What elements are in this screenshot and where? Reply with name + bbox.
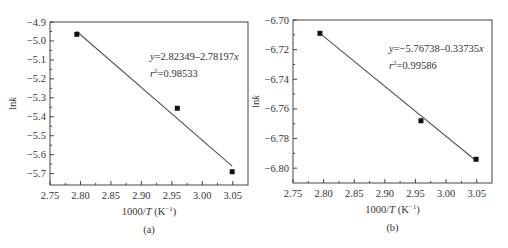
data-point (230, 169, 235, 174)
y-tick-label: −5.7 (27, 168, 46, 179)
x-tick-label: 2.85 (102, 190, 120, 201)
x-tick-label: 3.05 (468, 188, 486, 199)
y-tick-label: −5.5 (27, 130, 46, 141)
plot-frame (50, 22, 248, 185)
y-axis-title: lnk (250, 95, 261, 108)
x-tick-label: 3.05 (224, 190, 242, 201)
x-tick-label: 2.95 (163, 190, 181, 201)
data-point (74, 32, 79, 37)
y-tick-label: −5.0 (27, 35, 46, 46)
y-tick-label: −5.1 (27, 54, 46, 65)
x-axis-title: 1000/T (K−1) (122, 205, 177, 218)
figure: 2.752.802.852.902.953.003.05−4.9−5.0−5.1… (0, 0, 508, 248)
x-tick-label: 3.00 (437, 188, 455, 199)
panel-label: (a) (143, 224, 155, 236)
r-squared: r2=0.98533 (150, 67, 198, 79)
y-tick-label: −6.70 (265, 15, 289, 26)
regression-equation: y=−5.76738–0.33735x (388, 43, 484, 54)
y-tick-label: −6.76 (265, 103, 289, 114)
x-tick-label: 2.95 (406, 188, 424, 199)
y-axis-title: lnk (7, 97, 18, 110)
data-point (418, 118, 423, 123)
y-tick-label: −6.74 (265, 74, 290, 85)
y-tick-label: −5.3 (27, 92, 46, 103)
y-tick-label: −6.72 (265, 44, 289, 55)
chart-panel-b: 2.752.802.852.902.953.003.05−6.70−6.72−6… (250, 15, 492, 235)
x-tick-label: 3.00 (193, 190, 211, 201)
y-tick-label: −5.6 (27, 149, 46, 160)
y-tick-label: −5.2 (27, 73, 46, 84)
y-tick-label: −4.9 (27, 17, 46, 28)
x-axis-title: 1000/T (K−1) (365, 203, 420, 216)
y-tick-label: −6.78 (265, 133, 289, 144)
data-point (474, 157, 479, 162)
r-squared: r2=0.99586 (389, 59, 437, 71)
y-tick-label: −6.80 (265, 163, 289, 174)
x-tick-label: 2.90 (376, 188, 394, 199)
x-tick-label: 2.85 (345, 188, 363, 199)
data-point (175, 106, 180, 111)
y-tick-label: −5.4 (27, 111, 47, 122)
x-tick-label: 2.75 (41, 190, 59, 201)
regression-equation: y=2.82349–2.78197x (149, 51, 239, 62)
x-tick-label: 2.90 (132, 190, 150, 201)
x-tick-label: 2.80 (71, 190, 89, 201)
panel-label: (b) (386, 222, 399, 234)
x-tick-label: 2.75 (284, 188, 302, 199)
chart-panel-a: 2.752.802.852.902.953.003.05−4.9−5.0−5.1… (7, 17, 248, 237)
x-tick-label: 2.80 (314, 188, 332, 199)
data-point (317, 31, 322, 36)
